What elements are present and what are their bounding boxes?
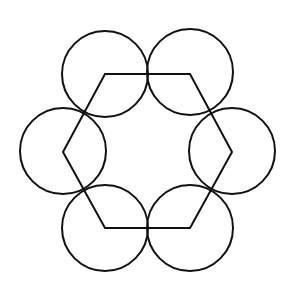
background [0, 0, 287, 283]
hexagon-circles-diagram [0, 0, 287, 283]
